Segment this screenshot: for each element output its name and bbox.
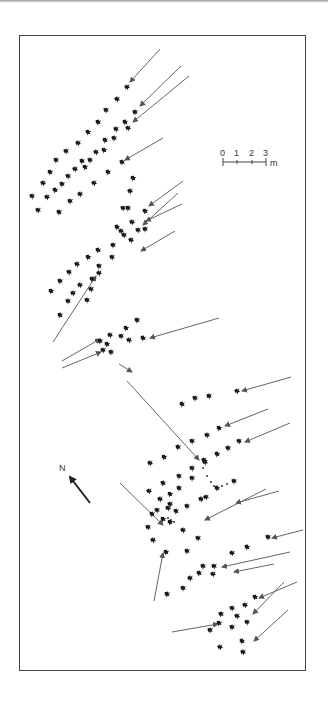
footprint-icon (118, 158, 127, 167)
direction-arrow-icon (133, 76, 189, 122)
footprint-icon (76, 190, 84, 198)
direction-arrow-icon (120, 483, 163, 525)
footprint-icon (159, 479, 168, 488)
track-dot (226, 483, 228, 485)
scale-unit: m (270, 158, 278, 168)
footprint-icon (124, 204, 133, 213)
scale-tick-3: 3 (263, 148, 268, 158)
direction-arrow-icon (254, 610, 288, 641)
footprint-icon (134, 226, 142, 234)
footprint-icon (100, 146, 109, 155)
footprint-icon (141, 225, 150, 234)
footprint-icon (109, 241, 118, 250)
footprint-icon (78, 157, 87, 166)
footprint-icon (203, 431, 211, 439)
footprint-icon (133, 316, 142, 325)
footprint-icon (178, 400, 187, 409)
footprint-icon (129, 174, 138, 183)
track-dot (210, 481, 212, 483)
direction-arrow-icon (146, 204, 182, 221)
footprint-icon (101, 136, 110, 145)
footprint-icon (34, 206, 42, 214)
footprint-icon (174, 443, 183, 452)
footprint-icon (123, 83, 131, 91)
footprint-icon (166, 490, 175, 499)
track-dot (206, 475, 208, 477)
footprint-icon (235, 437, 243, 445)
scale-tick-2: 2 (249, 148, 254, 158)
track-dot (213, 485, 215, 487)
footprint-icon (241, 601, 249, 609)
footprint-icon (81, 163, 90, 172)
footprint-icon (84, 253, 93, 262)
footprint-icon (228, 623, 237, 632)
direction-arrow-icon (125, 138, 163, 160)
footprint-icon (103, 340, 112, 349)
scale-tick-0: 0 (220, 148, 225, 158)
footprint-icon (175, 484, 184, 493)
direction-arrow-icon (205, 489, 266, 520)
footprint-icon (126, 187, 134, 195)
footprint-icon (238, 637, 247, 646)
track-dot (167, 517, 169, 519)
footprint-icon (73, 260, 81, 268)
footprint-icon (64, 297, 73, 306)
footprint-icon (110, 134, 119, 143)
footprint-icon (230, 477, 239, 486)
scale-tick-1: 1 (234, 148, 239, 158)
footprint-icon (228, 604, 236, 613)
footprint-icon (233, 612, 241, 620)
footprint-icon (199, 562, 208, 571)
footprint-icon (233, 387, 241, 395)
footprint-icon (183, 502, 192, 511)
footprint-icon (183, 547, 192, 556)
footprint-icon (58, 180, 67, 189)
footprint-icon (64, 172, 72, 180)
footprint-icon (39, 179, 47, 187)
footprint-icon (188, 474, 197, 483)
direction-arrow-icon (234, 564, 274, 572)
footprint-icon (264, 533, 273, 542)
footprint-icon (163, 590, 172, 599)
footprint-icon (191, 394, 200, 403)
direction-arrow-icon (62, 352, 101, 368)
footprint-icon (69, 289, 77, 297)
footprint-icon (65, 268, 73, 277)
footprint-icon (95, 269, 103, 277)
footprint-icon (104, 168, 113, 177)
footprint-icon (128, 218, 136, 226)
footprint-icon (175, 472, 184, 481)
direction-arrow-icon (225, 409, 268, 426)
footprint-icon (83, 296, 92, 305)
footprints (28, 83, 272, 656)
dotted-trackways (167, 467, 228, 523)
footprint-icon (145, 487, 153, 495)
footprint-icon (156, 495, 164, 503)
footprint-icon (112, 125, 120, 133)
track-dot (173, 521, 175, 523)
footprint-icon (56, 277, 65, 286)
north-arrow-icon (70, 477, 90, 503)
footprint-icon (107, 348, 116, 357)
direction-arrow-icon (140, 66, 181, 106)
footprint-icon (74, 139, 82, 147)
trackway-map: 0 1 2 3 m N (0, 0, 328, 709)
footprint-icon (113, 95, 121, 103)
direction-arrow-icon (272, 530, 303, 538)
direction-arrow-icon (259, 582, 297, 598)
footprint-icon (188, 464, 196, 472)
footprint-icon (224, 444, 233, 453)
footprint-icon (172, 507, 181, 516)
direction-arrow-icon (119, 364, 132, 372)
scale-bar: 0 1 2 3 m (220, 148, 278, 168)
footprint-icon (56, 311, 65, 320)
footprint-icon (46, 168, 55, 177)
footprint-icon (87, 285, 95, 293)
direction-arrow-icon (245, 423, 290, 442)
footprint-icon (215, 424, 224, 433)
footprint-icon (51, 186, 60, 195)
direction-arrow-icon (253, 582, 284, 614)
footprint-icon (213, 484, 222, 493)
footprint-icon (228, 549, 236, 557)
footprint-icon (194, 534, 202, 543)
